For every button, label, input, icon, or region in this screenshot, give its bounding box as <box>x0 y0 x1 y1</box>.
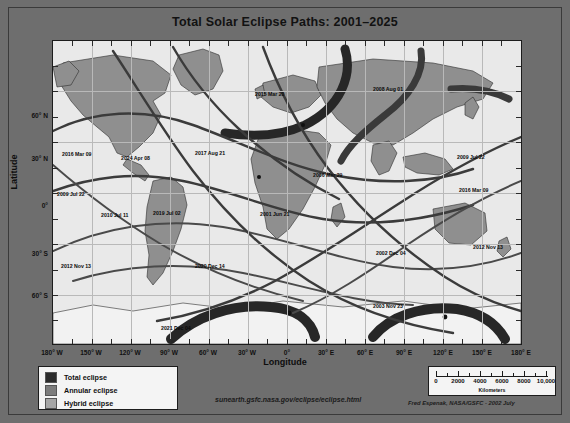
legend: Total eclipse Annular eclipse Hybrid ecl… <box>38 366 178 410</box>
lon-tick-label: 0° <box>284 349 290 356</box>
scale-bar: 0 2000 4000 6000 8000 10,000 Kilometers <box>428 366 556 396</box>
eclipse-label: 2021 Dec 04 <box>161 325 191 331</box>
eclipse-label: 2024 Apr 08 <box>121 155 150 161</box>
legend-label: Annular eclipse <box>64 386 118 395</box>
legend-swatch-hybrid-icon <box>45 398 57 409</box>
scale-bar-line <box>436 376 548 377</box>
eclipse-label: 2017 Aug 21 <box>195 150 225 156</box>
legend-item-total: Total eclipse <box>45 371 171 383</box>
lon-tick-label: 150° E <box>472 349 492 356</box>
eclipse-map: 2015 Mar 20 2008 Aug 01 2016 Mar 09 2024… <box>52 40 522 345</box>
scale-unit-label: Kilometers <box>429 387 555 393</box>
eclipse-label: 2008 Aug 01 <box>373 86 403 92</box>
lon-tick-label: 120° E <box>433 349 453 356</box>
lon-tick-label: 60° E <box>357 349 373 356</box>
lat-tick-label: 30° S <box>22 250 48 257</box>
eclipse-label: 2012 Nov 13 <box>61 263 91 269</box>
legend-swatch-annular-icon <box>45 385 57 396</box>
eclipse-label: 2001 Jun 21 <box>260 211 289 217</box>
lat-tick-label: 60° S <box>22 292 48 299</box>
scale-tick-label: 4000 <box>473 378 486 384</box>
legend-label: Hybrid eclipse <box>64 399 113 408</box>
lon-tick-label: 180° W <box>41 349 63 356</box>
legend-item-annular: Annular eclipse <box>45 384 171 396</box>
scale-tick-label: 8000 <box>517 378 530 384</box>
gridline-lat <box>53 91 521 92</box>
lon-tick-label: 120° W <box>119 349 141 356</box>
eclipse-label: 2003 Nov 23 <box>373 303 403 309</box>
scale-tick-label: 0 <box>434 378 437 384</box>
eclipse-label: 2009 Jul 22 <box>57 191 85 197</box>
eclipse-label: 2002 Dec 04 <box>376 250 406 256</box>
lon-tick-label: 30° W <box>238 349 256 356</box>
eclipse-label: 2010 Jul 11 <box>101 212 128 218</box>
scale-tick-label: 6000 <box>495 378 508 384</box>
scale-tick-label: 2000 <box>451 378 464 384</box>
lon-tick-label: 60° W <box>199 349 217 356</box>
eclipse-label: 2016 Mar 09 <box>62 151 91 157</box>
legend-swatch-total-icon <box>45 372 57 383</box>
gridline-lat <box>53 244 521 245</box>
eclipse-label: 2020 Dec 14 <box>195 263 225 269</box>
lat-tick-label: 30° N <box>22 155 48 162</box>
gridline-lat <box>53 193 521 194</box>
eclipse-label: 2009 Jul 22 <box>457 154 485 160</box>
lon-tick-label: 180° E <box>511 349 531 356</box>
credit-line: Fred Espenak, NASA/GSFC - 2002 July <box>408 400 515 406</box>
legend-item-hybrid: Hybrid eclipse <box>45 397 171 409</box>
gridline-lat <box>53 142 521 143</box>
legend-label: Total eclipse <box>64 373 107 382</box>
eclipse-label: 2016 Mar 09 <box>459 187 488 193</box>
lon-tick-label: 90° E <box>396 349 412 356</box>
eclipse-label: 2012 Nov 13 <box>473 244 503 250</box>
source-url: sunearth.gsfc.nasa.gov/eclipse/eclipse.h… <box>215 396 361 403</box>
lon-tick-label: 150° W <box>80 349 102 356</box>
eclipse-label: 2019 Jul 02 <box>153 210 181 216</box>
lat-tick-label: 60° N <box>22 112 48 119</box>
poster: Total Solar Eclipse Paths: 2001–2025 <box>0 0 570 423</box>
page-title: Total Solar Eclipse Paths: 2001–2025 <box>0 15 570 29</box>
lon-tick-label: 30° E <box>318 349 334 356</box>
lon-tick-label: 90° W <box>160 349 178 356</box>
gridline-lat <box>53 295 521 296</box>
eclipse-label: 2006 Mar 29 <box>313 172 342 178</box>
lat-tick-label: 0° <box>22 202 48 209</box>
y-axis-title: Latitude <box>9 155 19 190</box>
eclipse-label: 2015 Mar 20 <box>255 91 284 97</box>
scale-tick-label: 10,000 <box>537 378 555 384</box>
